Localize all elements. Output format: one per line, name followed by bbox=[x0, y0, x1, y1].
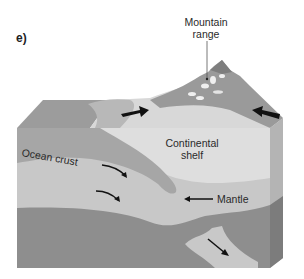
plate-tectonics-diagram: e) bbox=[0, 0, 304, 279]
continental-shelf-label: Continental shelf bbox=[160, 137, 224, 161]
mountain-range-label: Mountain range bbox=[178, 16, 234, 40]
block-diagram bbox=[0, 0, 304, 279]
mantle-label: Mantle bbox=[217, 193, 249, 205]
